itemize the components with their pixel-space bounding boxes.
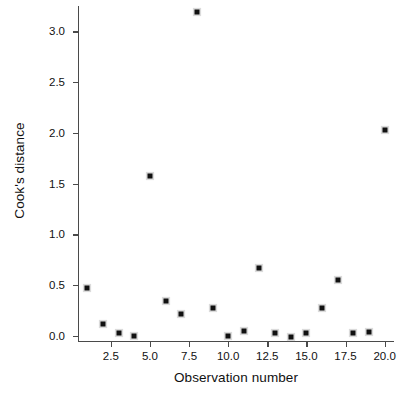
data-point bbox=[101, 321, 106, 326]
y-tick-0.5 bbox=[73, 285, 78, 286]
x-axis-title: Observation number bbox=[78, 370, 394, 385]
x-tick-label: 5.0 bbox=[142, 350, 158, 362]
data-point bbox=[226, 333, 231, 338]
y-tick-2.0 bbox=[73, 133, 78, 134]
y-tick-label: 2.0 bbox=[49, 127, 65, 139]
y-axis-title-text: Cook's distance bbox=[12, 122, 27, 218]
plot-area: 0.00.51.01.52.02.53.0 2.55.07.510.012.51… bbox=[78, 6, 394, 341]
y-tick-label: 0.5 bbox=[49, 279, 65, 291]
data-point bbox=[257, 265, 262, 270]
x-tick-label: 17.5 bbox=[334, 350, 356, 362]
data-point bbox=[366, 329, 371, 334]
x-tick-label: 2.5 bbox=[103, 350, 119, 362]
data-point bbox=[147, 173, 152, 178]
cooks-distance-scatter-chart: Cook's distance 0.00.51.01.52.02.53.0 2.… bbox=[0, 0, 402, 393]
data-point bbox=[241, 328, 246, 333]
x-tick-label: 12.5 bbox=[256, 350, 278, 362]
x-tick-12.5 bbox=[267, 342, 268, 347]
data-point bbox=[210, 305, 215, 310]
x-tick-20.0 bbox=[385, 342, 386, 347]
y-tick-2.5 bbox=[73, 82, 78, 83]
y-axis-line bbox=[78, 6, 79, 341]
data-point bbox=[194, 10, 199, 15]
y-tick-label: 1.0 bbox=[49, 228, 65, 240]
y-axis-title: Cook's distance bbox=[6, 0, 32, 341]
y-tick-3.0 bbox=[73, 31, 78, 32]
x-tick-15.0 bbox=[306, 342, 307, 347]
x-tick-17.5 bbox=[346, 342, 347, 347]
data-point bbox=[163, 299, 168, 304]
x-tick-2.5 bbox=[111, 342, 112, 347]
data-point bbox=[273, 330, 278, 335]
data-point bbox=[85, 286, 90, 291]
x-tick-5.0 bbox=[150, 342, 151, 347]
x-axis-title-text: Observation number bbox=[174, 370, 298, 385]
data-point bbox=[132, 333, 137, 338]
x-tick-label: 7.5 bbox=[181, 350, 197, 362]
x-tick-10.0 bbox=[228, 342, 229, 347]
y-tick-label: 2.5 bbox=[49, 76, 65, 88]
y-tick-0.0 bbox=[73, 336, 78, 337]
x-tick-label: 20.0 bbox=[373, 350, 395, 362]
data-point bbox=[382, 127, 387, 132]
data-point bbox=[335, 278, 340, 283]
data-point bbox=[320, 305, 325, 310]
x-tick-label: 10.0 bbox=[217, 350, 239, 362]
data-point bbox=[304, 330, 309, 335]
y-tick-label: 0.0 bbox=[49, 330, 65, 342]
data-point bbox=[351, 330, 356, 335]
x-tick-label: 15.0 bbox=[295, 350, 317, 362]
data-point bbox=[179, 311, 184, 316]
y-tick-1.5 bbox=[73, 184, 78, 185]
x-tick-7.5 bbox=[189, 342, 190, 347]
data-point bbox=[116, 330, 121, 335]
y-tick-1.0 bbox=[73, 234, 78, 235]
data-point bbox=[288, 334, 293, 339]
y-tick-label: 1.5 bbox=[49, 178, 65, 190]
y-tick-label: 3.0 bbox=[49, 25, 65, 37]
